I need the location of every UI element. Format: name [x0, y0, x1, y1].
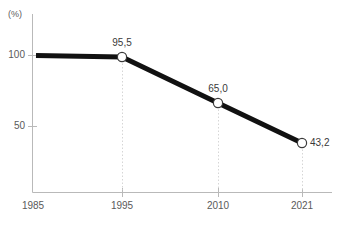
chart-footnote — [0, 219, 339, 229]
line-chart: (%) 100 50 1985 1995 2010 2021 95,5 65,0… — [0, 0, 339, 229]
x-tick-label-2010: 2010 — [197, 200, 239, 211]
data-point-label-2021: 43,2 — [310, 137, 339, 148]
x-tick-label-2021: 2021 — [281, 200, 323, 211]
data-point-marker-2021 — [297, 138, 306, 147]
x-tick-label-1995: 1995 — [101, 200, 143, 211]
y-axis-unit-label: (%) — [8, 9, 22, 19]
data-point-label-1995: 95,5 — [101, 37, 143, 48]
y-tick-label-100: 100 — [0, 49, 25, 60]
data-point-marker-2010 — [213, 98, 222, 107]
data-point-marker-1995 — [117, 52, 126, 61]
data-point-label-2010: 65,0 — [197, 83, 239, 94]
chart-plot-area — [0, 0, 339, 229]
data-line-series — [36, 56, 302, 144]
x-tick-label-1985: 1985 — [12, 200, 54, 211]
y-tick-label-50: 50 — [0, 120, 25, 131]
